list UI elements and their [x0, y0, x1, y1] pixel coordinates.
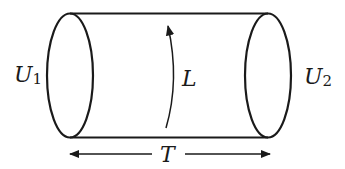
left-boundary-label: U1 [14, 62, 42, 88]
right-boundary-label: U2 [304, 64, 332, 90]
length-label: T [160, 142, 177, 167]
loop-arrow-icon [166, 26, 174, 128]
cylinder-diagram: U1 U2 L T [0, 0, 345, 169]
right-boundary-ellipse [245, 14, 291, 138]
left-boundary-ellipse [47, 14, 93, 138]
loop-label: L [181, 66, 197, 91]
